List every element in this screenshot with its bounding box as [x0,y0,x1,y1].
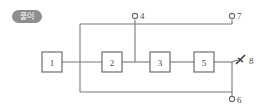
terminal-8-arrow-icon [236,55,245,64]
terminal-6-circle[interactable] [229,96,234,101]
terminal-6-label: 6 [237,95,242,105]
block-1[interactable]: 1 [42,52,62,72]
terminal-4[interactable]: 4 [132,11,145,21]
block-2-label: 2 [110,58,115,68]
terminal-8-label: 8 [249,56,254,66]
diagram-canvas: 풀이 1 [0,0,269,111]
block-2[interactable]: 2 [102,52,122,72]
terminal-8[interactable]: 8 [236,55,254,66]
block-5-label: 5 [202,58,207,68]
terminal-7-circle[interactable] [229,13,234,18]
terminal-7-label: 7 [237,11,242,21]
circuit-block-diagram: 1 2 3 5 4 7 [0,0,269,111]
block-1-label: 1 [50,58,55,68]
wire-terminal8-stub [232,60,238,62]
terminal-6[interactable]: 6 [229,95,242,105]
terminal-4-label: 4 [140,11,145,21]
terminal-7[interactable]: 7 [229,11,242,21]
block-3-label: 3 [158,58,163,68]
block-3[interactable]: 3 [150,52,170,72]
terminal-4-circle[interactable] [132,13,137,18]
block-5[interactable]: 5 [194,52,214,72]
